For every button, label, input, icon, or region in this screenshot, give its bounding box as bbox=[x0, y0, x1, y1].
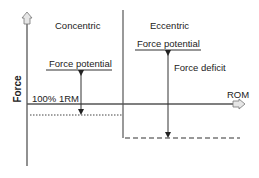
concentric-baseline-label: 100% 1RM bbox=[32, 94, 79, 104]
eccentric-potential-label: Force potential bbox=[137, 39, 200, 49]
eccentric-title: Eccentric bbox=[150, 21, 189, 31]
diagram-canvas bbox=[0, 0, 259, 178]
concentric-title: Concentric bbox=[55, 21, 100, 31]
eccentric-deficit-label: Force deficit bbox=[174, 63, 226, 73]
y-axis-label: Force bbox=[13, 75, 23, 102]
y-axis bbox=[22, 12, 32, 166]
y-axis-arrow-icon bbox=[22, 12, 32, 24]
concentric-potential-label: Force potential bbox=[49, 59, 112, 69]
x-axis-label: ROM bbox=[227, 90, 249, 100]
x-axis-arrow-icon bbox=[233, 99, 245, 109]
